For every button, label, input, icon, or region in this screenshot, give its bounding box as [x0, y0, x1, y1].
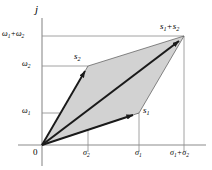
origin-label: 0 [33, 148, 38, 157]
vector-s1-plus-s2-arrow [42, 41, 179, 145]
omega-2-base: ω [22, 59, 28, 68]
omega-2-sub: 2 [28, 63, 31, 69]
vector-label-s1-plus-s2: s1+s2 [160, 22, 179, 31]
omega-sum-sub-1: 1 [8, 33, 11, 39]
vector-sum-sub-1: 1 [164, 26, 167, 32]
vector-s1-base: s [143, 105, 147, 115]
sigma-2-sub: 2 [87, 152, 90, 158]
sigma-1-sub: 1 [139, 152, 142, 158]
vector-parallelogram-figure: j ω1+ω2 ω2 ω1 0 σ2 σ1 σ1+σ2 s2 s1 s1+s2 [0, 0, 212, 170]
y-tick-label-omega1: ω1 [22, 107, 30, 115]
vector-s2-sub: 2 [78, 56, 81, 62]
y-axis-label: j [35, 4, 38, 15]
sigma-sum-sub-1: 1 [174, 152, 177, 158]
omega-1-base: ω [22, 106, 28, 115]
vector-s2-base: s [74, 51, 78, 61]
omega-sum-base-1: ω [2, 29, 8, 38]
y-tick-label-omega1-plus-omega2: ω1+ω2 [2, 30, 24, 38]
omega-sum-sub-2: 2 [22, 33, 25, 39]
vector-label-s1: s1 [143, 106, 150, 115]
x-tick-label-sigma2: σ2 [83, 149, 90, 157]
vector-sum-base-1: s [160, 21, 164, 31]
vector-sum-sub-2: 2 [176, 26, 179, 32]
omega-sum-base-2: ω [16, 29, 22, 38]
sigma-sum-sub-2: 2 [186, 152, 189, 158]
figure-canvas [0, 0, 212, 170]
omega-1-sub: 1 [28, 110, 31, 116]
x-tick-label-sigma1-plus-sigma2: σ1+σ2 [170, 149, 189, 157]
x-tick-label-sigma1: σ1 [135, 149, 142, 157]
vector-s1-sub: 1 [147, 110, 150, 116]
vector-label-s2: s2 [74, 52, 81, 61]
y-tick-label-omega2: ω2 [22, 60, 30, 68]
